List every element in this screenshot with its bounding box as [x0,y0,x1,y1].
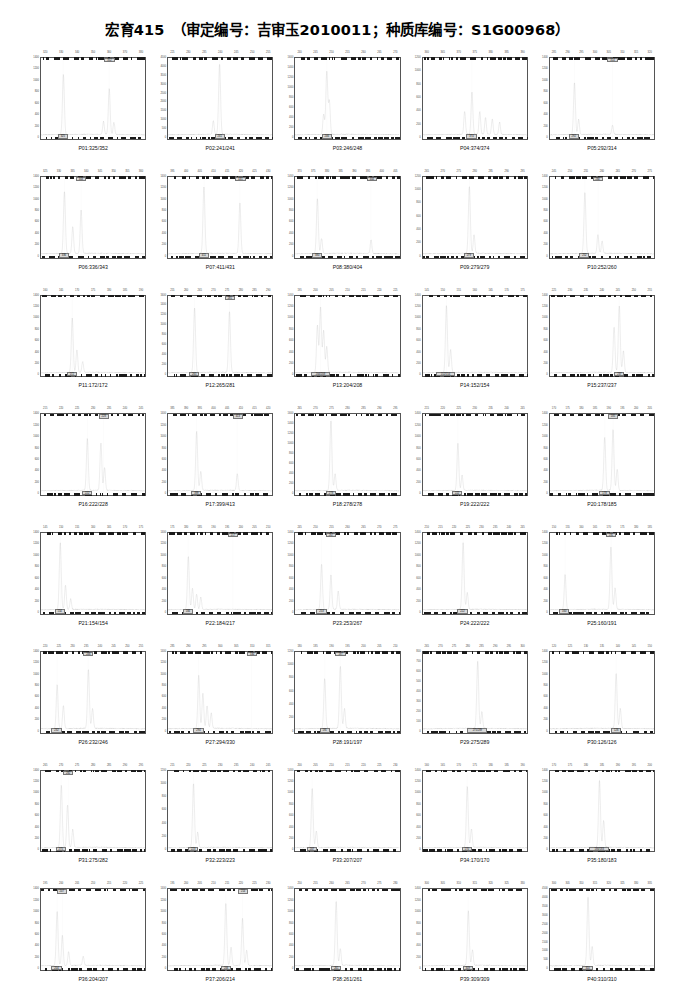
y-tick-label: 800 [543,448,547,451]
panel-caption: P01:325/352 [40,145,146,152]
y-tick-label: 1200 [415,176,421,179]
trace-plot [549,770,655,853]
panel-caption: P07:411/431 [167,264,273,271]
trace-svg [168,177,272,258]
y-tick-label: 200 [543,482,547,485]
y-tick-label: 1000 [288,555,294,558]
y-tick-label: 1000 [33,792,39,795]
panel-caption: P40:310/310 [549,976,655,983]
y-tick-label: 100 [416,721,420,724]
panel-caption: P27:294/330 [167,739,273,746]
panel-caption: P11:172/172 [40,382,146,389]
y-tick-label: 1200 [33,187,39,190]
y-axis-ticks: 1400120010008006004002000 [278,295,293,378]
y-axis-ticks: 1400120010008006004002000 [24,413,39,496]
y-tick-label: 800 [35,685,39,688]
y-tick-label: 400 [289,589,293,592]
y-tick-label: 1000 [160,324,166,327]
y-tick-label: 400 [289,352,293,355]
y-tick-label: 600 [416,578,420,581]
y-tick-label: 1400 [542,57,548,60]
y-axis-ticks: 1400120010008006004002000 [24,770,39,853]
y-tick-label: 0 [419,493,420,496]
y-tick-label: 0 [292,849,293,852]
trace-svg [295,414,399,495]
trace-plot [422,176,528,259]
trace-svg [423,533,527,614]
panel-p20: 1701751801851901952002051400120010008006… [531,403,658,522]
panel-p35: 1701751801851901952001400120010008006004… [531,760,658,879]
y-tick-label: 1200 [542,543,548,546]
y-tick-label: 1000 [288,911,294,914]
panel-caption: P24:222/222 [422,620,528,627]
trace-svg [168,771,272,852]
y-tick-label: 0 [38,968,39,971]
y-tick-label: 0 [292,612,293,615]
y-tick-label: 1200 [33,425,39,428]
y-tick-label: 1200 [415,900,421,903]
y-tick-label: 200 [416,711,420,714]
y-tick-label: 800 [543,91,547,94]
y-axis-ticks: 1400120010008006004002000 [533,295,548,378]
y-tick-label: 3000 [542,915,548,918]
y-tick-label: 800 [543,685,547,688]
y-tick-label: 800 [543,804,547,807]
trace-svg [423,177,527,258]
y-tick-label: 1500 [542,942,548,945]
trace-svg [41,889,145,970]
y-tick-label: 800 [35,448,39,451]
panel-p32: 2152202252302352402451200100080060040020… [149,760,276,879]
y-tick-label: 0 [165,849,166,852]
page-title: 宏育415 （审定编号：吉审玉2010011；种质库编号：S1G00968） [0,18,675,39]
y-tick-label: 0 [546,968,547,971]
y-axis-ticks: 1400120010008006004002000 [151,651,166,734]
y-tick-label: 400 [35,352,39,355]
y-tick-label: 400 [35,233,39,236]
trace-plot [549,651,655,734]
y-tick-label: 1400 [415,770,421,773]
y-tick-label: 400 [543,589,547,592]
y-tick-label: 200 [416,242,420,245]
y-tick-label: 1600 [288,413,294,416]
trace-svg [423,889,527,970]
y-axis-ticks: 450040003500300025002000150010005000 [533,888,548,971]
y-tick-label: 1400 [415,888,421,891]
trace-svg [41,414,145,495]
y-axis-ticks: 1400120010008006004002000 [533,176,548,259]
y-tick-label: 200 [35,957,39,960]
y-tick-label: 1000 [542,792,548,795]
panel-p30: 1201251301351401451501400120010008006004… [531,641,658,760]
y-tick-label: 600 [543,221,547,224]
y-tick-label: 200 [289,957,293,960]
y-tick-label: 1400 [415,413,421,416]
y-tick-label: 200 [289,838,293,841]
trace-plot [167,176,273,259]
y-tick-label: 1200 [33,306,39,309]
y-tick-label: 600 [162,221,166,224]
trace-plot [40,413,146,496]
trace-svg [550,177,654,258]
y-tick-label: 0 [292,137,293,140]
y-tick-label: 3500 [160,75,166,78]
y-tick-label: 1000 [415,189,421,192]
y-tick-label: 200 [162,601,166,604]
y-tick-label: 0 [546,493,547,496]
panel-p19: 2152202252302352402451400120010008006004… [404,403,531,522]
panel-p03: 2402452502552602652701600140012001000800… [276,47,403,166]
y-tick-label: 1400 [160,176,166,179]
panel-caption: P04:374/374 [422,145,528,152]
y-tick-label: 800 [543,566,547,569]
y-tick-label: 200 [543,244,547,247]
trace-svg [295,771,399,852]
y-tick-label: 4000 [542,897,548,900]
y-tick-label: 1600 [160,295,166,298]
y-tick-label: 1400 [542,651,548,654]
y-axis-ticks: 1400120010008006004002000 [278,770,293,853]
y-tick-label: 1000 [415,911,421,914]
y-tick-label: 400 [162,945,166,948]
y-tick-label: 1500 [160,110,166,113]
y-tick-label: 1400 [288,67,294,70]
trace-svg [423,414,527,495]
panel-caption: P38:261/261 [294,976,400,983]
y-tick-label: 800 [289,97,293,100]
